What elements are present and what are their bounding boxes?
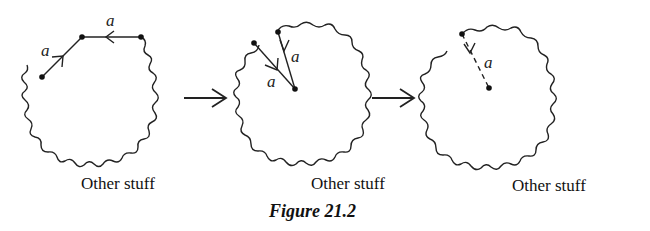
wavy-boundary <box>419 25 557 169</box>
edge-label: a <box>41 41 50 60</box>
figure-diagram: a a Other stuff a a Other stuff a Other … <box>0 0 650 231</box>
edge-label: a <box>291 47 300 66</box>
edge-label: a <box>484 53 493 72</box>
panel-label: Other stuff <box>512 176 586 195</box>
transition-arrow-icon <box>184 89 226 107</box>
figure-caption: Figure 21.2 <box>268 201 356 221</box>
panel-2: a a Other stuff <box>234 22 385 193</box>
panel-3: a Other stuff <box>419 25 586 195</box>
edge-label: a <box>106 11 115 30</box>
transition-arrow-icon <box>372 89 414 107</box>
edge-label: a <box>267 72 276 91</box>
panel-1: a a Other stuff <box>22 11 159 193</box>
panel-label: Other stuff <box>311 174 385 193</box>
panel-label: Other stuff <box>81 174 155 193</box>
arrow-icon <box>464 43 475 53</box>
